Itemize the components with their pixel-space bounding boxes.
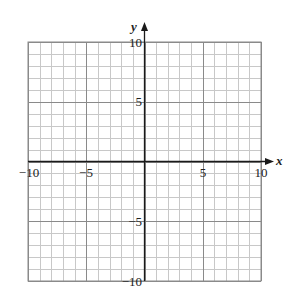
x-tick-label-neg10: −10 <box>19 165 39 180</box>
x-axis-arrow-icon <box>265 158 274 165</box>
x-tick-label-neg5: −5 <box>79 165 93 180</box>
y-tick-label-10: 10 <box>129 35 142 50</box>
x-tick-label-5: 5 <box>200 165 207 180</box>
coordinate-plane: x y −10 −5 5 10 10 5 −5 −10 <box>0 0 296 302</box>
y-tick-label-neg5: −5 <box>128 214 142 229</box>
y-axis-label: y <box>129 19 137 34</box>
y-tick-label-5: 5 <box>136 94 143 109</box>
y-tick-label-neg10: −10 <box>122 274 142 289</box>
x-tick-label-10: 10 <box>255 165 268 180</box>
y-axis-arrow-icon <box>141 22 148 31</box>
x-axis-label: x <box>275 153 283 168</box>
